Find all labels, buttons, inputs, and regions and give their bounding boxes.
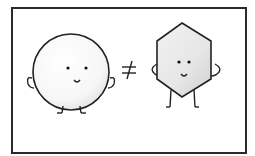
circle-character <box>28 34 115 113</box>
circle-body-icon <box>33 34 109 110</box>
eye-icon <box>66 66 69 69</box>
right-arm-icon <box>211 64 220 76</box>
eye-icon <box>84 66 87 69</box>
hexagon-body-icon <box>157 23 211 97</box>
eye-icon <box>177 60 180 63</box>
eye-icon <box>187 60 190 63</box>
not-equal-icon <box>122 61 136 79</box>
hexagon-character <box>152 23 220 107</box>
illustration <box>0 0 255 156</box>
